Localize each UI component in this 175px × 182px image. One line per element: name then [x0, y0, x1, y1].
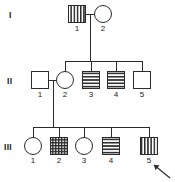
individual-III-1-circle[interactable]	[25, 138, 42, 155]
individual-I-2-circle[interactable]	[95, 6, 112, 23]
pedigree-chart: IIIIII 121234512345	[0, 0, 175, 182]
id-label-II-4: 4	[114, 91, 118, 99]
id-label-II-5: 5	[140, 91, 144, 99]
individual-II-2-circle[interactable]	[57, 72, 74, 89]
id-label-III-1: 1	[31, 157, 35, 165]
id-label-III-4: 4	[109, 157, 113, 165]
id-label-III-5: 5	[147, 157, 151, 165]
individual-II-5-square[interactable]	[134, 72, 151, 89]
id-label-II-1: 1	[38, 91, 42, 99]
id-label-II-3: 3	[89, 91, 93, 99]
generation-label-I: I	[9, 11, 12, 20]
individual-III-4-square[interactable]	[103, 138, 120, 155]
individual-III-3-circle[interactable]	[76, 138, 93, 155]
individual-II-4-square[interactable]	[108, 72, 125, 89]
individual-II-1-square[interactable]	[32, 72, 49, 89]
generation-label-III: III	[4, 143, 12, 152]
generation-label-II: II	[7, 77, 12, 86]
id-label-III-2: 2	[57, 157, 61, 165]
id-label-II-2: 2	[63, 91, 67, 99]
individual-II-3-square[interactable]	[83, 72, 100, 89]
proband-arrow-layer	[154, 165, 170, 178]
id-label-III-3: 3	[82, 157, 86, 165]
id-label-I-1: 1	[75, 25, 79, 33]
individual-I-1-square[interactable]	[69, 6, 86, 23]
id-label-I-2: 2	[101, 25, 105, 33]
individual-symbol-layer	[25, 6, 158, 155]
individual-III-2-square[interactable]	[51, 138, 68, 155]
individual-III-5-square[interactable]	[141, 138, 158, 155]
